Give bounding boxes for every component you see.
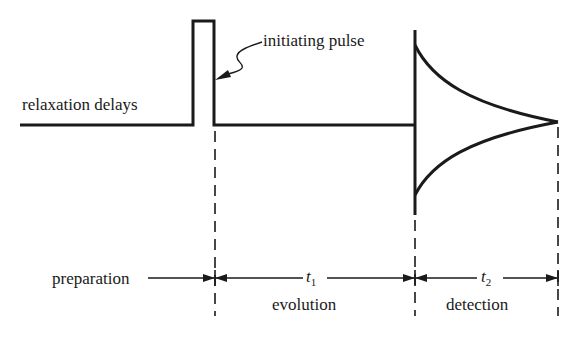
- evolution-label: evolution: [272, 296, 336, 313]
- pulse-sequence-diagram: relaxation delays initiating pulse prepa…: [0, 0, 582, 340]
- detection-label: detection: [446, 296, 508, 313]
- period-boundaries: [215, 127, 558, 316]
- t1-label: t1: [306, 268, 316, 288]
- pulse-pointer: [215, 42, 262, 80]
- relaxation-delays-label: relaxation delays: [22, 96, 138, 113]
- pulse-pointer-arrowhead: [215, 70, 231, 80]
- fid-upper-envelope: [415, 45, 558, 122]
- preparation-label: preparation: [52, 270, 129, 287]
- diagram-canvas: [0, 0, 582, 340]
- fid-lower-envelope: [415, 122, 558, 195]
- timing-arrows: [148, 270, 558, 286]
- t2-label: t2: [481, 268, 491, 288]
- initiating-pulse-label: initiating pulse: [263, 32, 365, 49]
- t1-subscript: 1: [311, 276, 317, 288]
- pulse-pointer-leader: [226, 42, 262, 75]
- signal-trace: [20, 21, 558, 215]
- t2-subscript: 2: [486, 276, 492, 288]
